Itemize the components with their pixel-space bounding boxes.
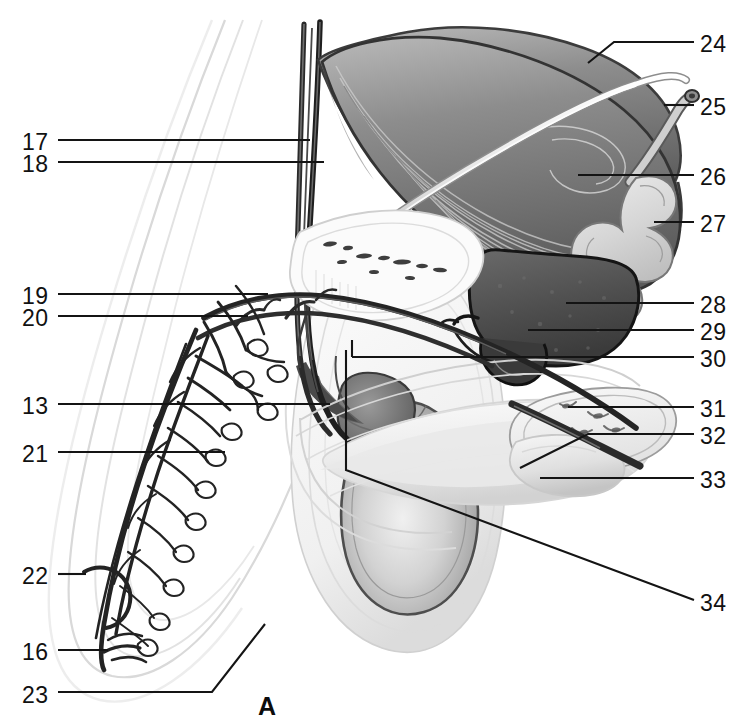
label-24: 24	[700, 33, 727, 56]
label-26: 26	[700, 166, 727, 189]
anatomy-figure: 17 18 19 20 13 21 22 16 23 24 25 26 27 2…	[0, 0, 749, 727]
panel-letter-a: A	[258, 692, 276, 721]
label-28: 28	[700, 294, 727, 317]
label-13: 13	[22, 395, 49, 418]
label-20: 20	[22, 307, 49, 330]
label-16: 16	[22, 641, 49, 664]
label-18: 18	[22, 153, 49, 176]
label-34: 34	[700, 592, 727, 615]
label-31: 31	[700, 398, 727, 421]
label-32: 32	[700, 425, 727, 448]
label-29: 29	[700, 321, 727, 344]
label-33: 33	[700, 469, 727, 492]
leader-23	[58, 624, 265, 692]
label-23: 23	[22, 684, 49, 707]
label-30: 30	[700, 348, 727, 371]
label-22: 22	[22, 565, 49, 588]
anatomy-illustration	[0, 0, 749, 727]
label-25: 25	[700, 96, 727, 119]
label-27: 27	[700, 213, 727, 236]
label-21: 21	[22, 443, 49, 466]
